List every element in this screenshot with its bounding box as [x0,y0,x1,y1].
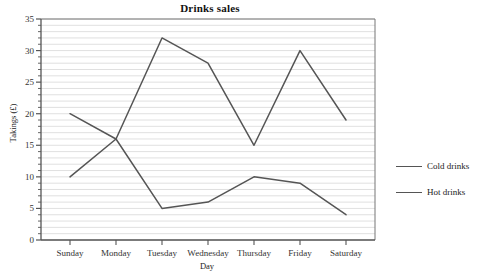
y-tick-label: 0 [8,235,34,245]
x-tick-label-monday: Monday [101,248,131,258]
legend-line-icon [396,192,422,193]
legend-item-cold-drinks[interactable]: Cold drinks [396,156,469,176]
chart-container: Drinks sales Takings (£) Day 05101520253… [0,0,484,280]
legend-item-hot-drinks[interactable]: Hot drinks [396,182,469,202]
chart-title: Drinks sales [0,2,420,14]
legend-label: Cold drinks [427,161,469,171]
x-tick-label-sunday: Sunday [57,248,84,258]
x-axis-label: Day [38,261,376,271]
legend-line-icon [396,166,422,167]
plot-background [41,19,375,240]
y-tick-label: 5 [8,203,34,213]
x-tick-label-thursday: Thursday [237,248,271,258]
x-tick-label-tuesday: Tuesday [147,248,177,258]
x-tick-label-friday: Friday [288,248,312,258]
y-tick-label: 35 [8,14,34,24]
x-tick-label-saturday: Saturday [330,248,362,258]
legend-label: Hot drinks [427,187,465,197]
y-tick-label: 25 [8,77,34,87]
y-tick-label: 15 [8,140,34,150]
plot-area [0,0,484,280]
y-tick-label: 30 [8,46,34,56]
y-tick-label: 20 [8,109,34,119]
chart-legend: Cold drinksHot drinks [396,156,469,208]
y-tick-label: 10 [8,172,34,182]
x-tick-label-wednesday: Wednesday [187,248,228,258]
